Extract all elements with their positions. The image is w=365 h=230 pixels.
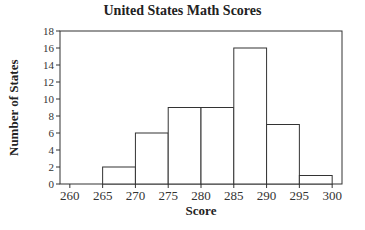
histogram-bar bbox=[168, 108, 201, 185]
y-tick-label: 6 bbox=[49, 127, 55, 139]
y-tick-label: 2 bbox=[49, 161, 55, 173]
histogram-bar bbox=[267, 125, 300, 185]
y-tick-label: 14 bbox=[43, 59, 55, 71]
y-tick-label: 4 bbox=[49, 144, 55, 156]
y-tick-label: 12 bbox=[43, 76, 54, 88]
y-tick-label: 10 bbox=[43, 93, 55, 105]
x-tick-label: 280 bbox=[191, 188, 211, 203]
x-tick-label: 260 bbox=[60, 188, 80, 203]
histogram-bar bbox=[201, 108, 234, 185]
y-tick-label: 16 bbox=[43, 42, 55, 54]
y-tick-label: 0 bbox=[49, 178, 55, 190]
x-tick-label: 290 bbox=[257, 188, 277, 203]
histogram-plot: 0246810121416182602652702752802852902953… bbox=[0, 0, 365, 230]
histogram-bar bbox=[299, 176, 332, 185]
x-tick-label: 275 bbox=[158, 188, 178, 203]
x-tick-label: 300 bbox=[322, 188, 342, 203]
y-tick-label: 8 bbox=[49, 110, 55, 122]
x-tick-label: 295 bbox=[290, 188, 310, 203]
histogram-bar bbox=[135, 133, 168, 184]
histogram-bar bbox=[234, 48, 267, 184]
x-tick-label: 265 bbox=[93, 188, 113, 203]
y-tick-label: 18 bbox=[43, 25, 55, 37]
histogram-bar bbox=[103, 167, 136, 184]
x-tick-label: 285 bbox=[224, 188, 244, 203]
x-tick-label: 270 bbox=[126, 188, 146, 203]
